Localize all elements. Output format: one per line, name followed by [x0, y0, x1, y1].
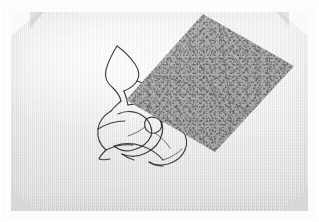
corner-mount-bottom-right [282, 189, 308, 211]
corner-mount-top-right-shadow [277, 12, 289, 27]
corner-mount-bottom-left [11, 189, 37, 211]
paper-sheet [11, 12, 308, 211]
paper-weave-horizontal-texture [11, 12, 308, 211]
photo-scene [0, 0, 319, 222]
corner-mount-top-left-shadow [30, 12, 43, 29]
